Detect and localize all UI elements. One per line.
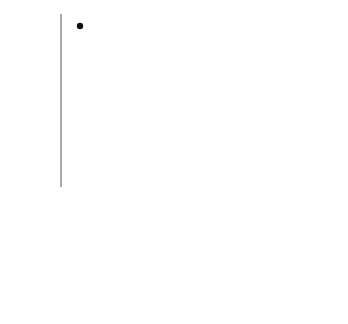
extinction-chart [0, 0, 348, 324]
legend-dot-icon [77, 23, 83, 29]
